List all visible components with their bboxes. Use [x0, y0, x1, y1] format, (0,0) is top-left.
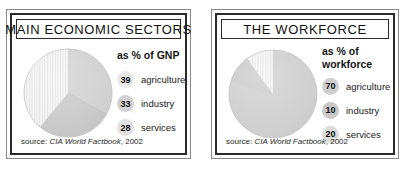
legend-row-services-gnp: 28 services — [117, 118, 201, 138]
legend-label-agriculture-workforce: agriculture — [346, 81, 390, 92]
legend-row-agriculture-workforce: 70 agriculture — [322, 76, 408, 96]
infographic-root: MAIN ECONOMIC SECTORS — [0, 0, 408, 171]
pie-chart-gnp — [21, 46, 117, 142]
pie-outline-gnp — [24, 49, 112, 137]
panel-title-right: THE WORKFORCE — [243, 22, 366, 37]
panel-the-workforce: THE WORKFORCE — [211, 9, 399, 159]
legend-label-agriculture-gnp: agriculture — [141, 74, 185, 85]
legend-workforce: as % of workforce 70 agriculture 10 indu… — [322, 45, 408, 148]
legend-badge-industry-workforce: 10 — [322, 102, 339, 119]
legend-heading-workforce: as % of workforce — [322, 45, 408, 70]
panel-body-left: as % of GNP 39 agriculture 33 industry 2… — [16, 41, 181, 131]
pie-svg-workforce — [226, 47, 322, 143]
legend-row-agriculture-gnp: 39 agriculture — [117, 70, 201, 90]
legend-badge-agriculture-workforce: 70 — [322, 78, 339, 95]
legend-row-industry-workforce: 10 industry — [322, 100, 408, 120]
source-prefix-right: source: — [226, 137, 254, 146]
source-title-left: CIA World Factbook — [49, 137, 120, 146]
legend-label-services-gnp: services — [141, 122, 176, 133]
legend-badge-agriculture-gnp: 39 — [117, 71, 134, 88]
legend-gnp: as % of GNP 39 agriculture 33 industry 2… — [117, 49, 201, 142]
legend-badge-services-gnp: 28 — [117, 119, 134, 136]
source-note-left: source: CIA World Factbook, 2002 — [21, 137, 143, 146]
legend-label-industry-gnp: industry — [141, 98, 174, 109]
panel-body-right: as % of workforce 70 agriculture 10 indu… — [221, 41, 389, 131]
pie-svg-gnp — [21, 46, 117, 142]
pie-outline-workforce — [229, 50, 317, 138]
source-suffix-right: , 2002 — [326, 137, 348, 146]
panel-title-box-right: THE WORKFORCE — [221, 19, 389, 39]
source-title-right: CIA World Factbook — [254, 137, 325, 146]
legend-row-industry-gnp: 33 industry — [117, 94, 201, 114]
source-suffix-left: , 2002 — [121, 137, 143, 146]
legend-label-industry-workforce: industry — [346, 105, 379, 116]
legend-label-services-workforce: services — [346, 129, 381, 140]
pie-chart-workforce — [226, 47, 322, 143]
legend-badge-industry-gnp: 33 — [117, 95, 134, 112]
panel-main-economic-sectors: MAIN ECONOMIC SECTORS — [6, 9, 191, 159]
panel-inner-frame-right: THE WORKFORCE — [215, 13, 395, 155]
panel-title-box-left: MAIN ECONOMIC SECTORS — [16, 19, 181, 39]
source-prefix-left: source: — [21, 137, 49, 146]
source-note-right: source: CIA World Factbook, 2002 — [226, 137, 348, 146]
legend-heading-gnp: as % of GNP — [117, 49, 201, 62]
panel-title-left: MAIN ECONOMIC SECTORS — [5, 22, 191, 37]
panel-inner-frame-left: MAIN ECONOMIC SECTORS — [10, 13, 187, 155]
